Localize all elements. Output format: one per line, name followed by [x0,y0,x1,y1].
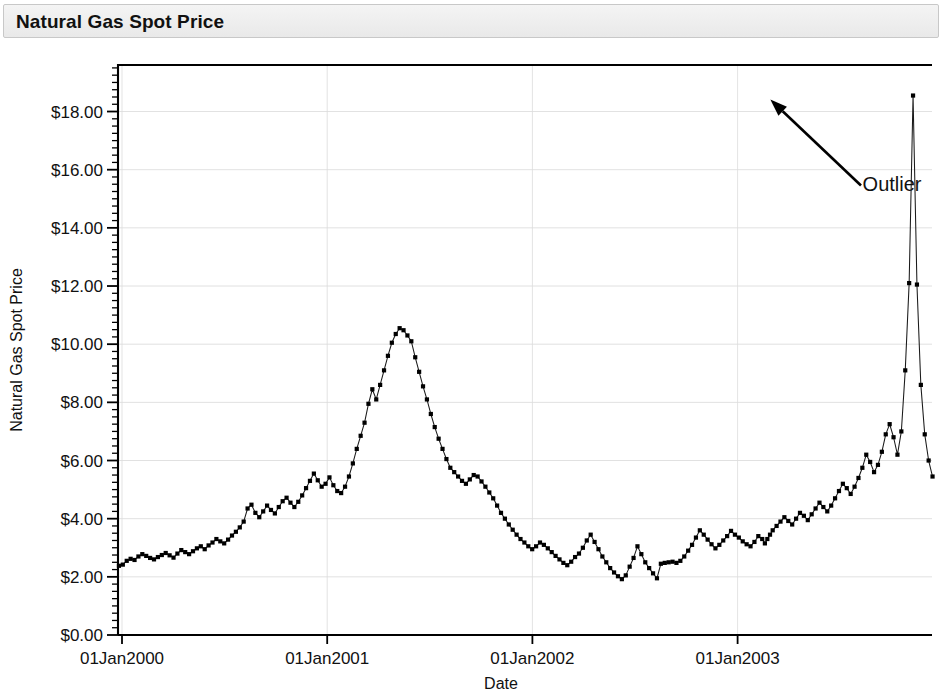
data-point-marker [269,508,273,512]
data-point-marker [187,552,191,556]
data-point-marker [624,573,628,577]
data-point-marker [709,542,713,546]
data-point-marker [600,554,604,558]
outlier-annotation: Outlier [770,100,922,196]
data-point-marker [234,530,238,534]
data-point-marker [616,574,620,578]
data-point-marker [635,544,639,548]
data-point-marker [320,485,324,489]
data-point-marker [670,560,674,564]
data-point-marker [121,563,125,567]
data-point-marker [829,503,833,507]
data-point-marker [698,528,702,532]
data-point-marker [164,551,168,555]
data-point-marker [868,460,872,464]
data-point-marker [771,528,775,532]
data-point-marker [849,492,853,496]
y-axis: $0.00$2.00$4.00$6.00$8.00$10.00$12.00$14… [8,68,118,645]
data-point-marker [721,538,725,542]
y-tick-label: $10.00 [51,335,103,354]
data-point-marker [860,466,864,470]
data-point-marker [585,538,589,542]
y-tick-label: $14.00 [51,219,103,238]
x-axis: 01Jan200001Jan200101Jan200201Jan2003 Dat… [80,635,780,692]
data-point-marker [550,550,554,554]
y-axis-title: Natural Gas Spot Price [8,268,25,432]
data-point-marker [702,533,706,537]
data-point-marker [433,425,437,429]
data-point-marker [821,505,825,509]
data-point-marker [288,501,292,505]
data-point-marker [899,429,903,433]
data-point-marker [763,541,767,545]
data-point-marker [179,548,183,552]
data-point-marker [483,485,487,489]
data-point-marker [440,447,444,451]
data-point-marker [760,537,764,541]
data-point-marker [880,450,884,454]
data-point-marker [765,537,769,541]
data-point-marker [778,519,782,523]
data-point-marker [798,511,802,515]
data-point-marker [152,557,156,561]
data-point-marker [386,354,390,358]
data-point-marker [674,561,678,565]
data-point-marker [678,559,682,563]
data-point-marker [713,546,717,550]
data-point-marker [813,506,817,510]
data-point-marker [203,547,207,551]
data-point-marker [382,368,386,372]
data-point-marker [663,561,667,565]
data-point-marker [351,461,355,465]
data-point-marker [888,422,892,426]
data-point-marker [553,554,557,558]
data-point-marker [316,478,320,482]
x-tick-label: 01Jan2000 [80,649,164,668]
data-point-marker [612,570,616,574]
data-point-marker [144,554,148,558]
data-point-marker [456,474,460,478]
data-point-marker [495,503,499,507]
data-point-marker [752,540,756,544]
data-point-marker [394,332,398,336]
data-point-marker [659,562,663,566]
annotation-label: Outlier [863,173,922,195]
plot-frame [118,65,932,635]
data-point-marker [737,535,741,539]
data-point-marker [717,543,721,547]
data-point-marker [927,458,931,462]
data-point-marker [413,355,417,359]
data-point-marker [748,544,752,548]
data-point-marker [895,453,899,457]
page-title: Natural Gas Spot Price [16,11,224,33]
data-point-marker [774,524,778,528]
data-point-marker [390,341,394,345]
data-point-marker [741,539,745,543]
data-point-marker [837,489,841,493]
data-point-marker [577,551,581,555]
data-point-marker [292,505,296,509]
data-point-marker [756,534,760,538]
data-point-marker [872,470,876,474]
data-point-marker [530,547,534,551]
data-point-marker [175,551,179,555]
data-point-marker [725,534,729,538]
data-point-marker [257,515,261,519]
data-point-marker [729,529,733,533]
data-point-marker [782,515,786,519]
chart-figure: $0.00$2.00$4.00$6.00$8.00$10.00$12.00$14… [0,44,946,698]
data-point-marker [589,533,593,537]
data-point-marker [468,477,472,481]
data-point-marker [148,556,152,560]
data-point-marker [651,571,655,575]
data-point-marker [472,473,476,477]
data-point-marker [214,537,218,541]
data-point-marker [140,552,144,556]
data-point-marker [160,553,164,557]
data-point-marker [694,535,698,539]
data-point-marker [686,549,690,553]
data-point-marker [911,93,915,97]
data-point-marker [507,522,511,526]
data-point-marker [655,576,659,580]
data-point-marker [339,491,343,495]
